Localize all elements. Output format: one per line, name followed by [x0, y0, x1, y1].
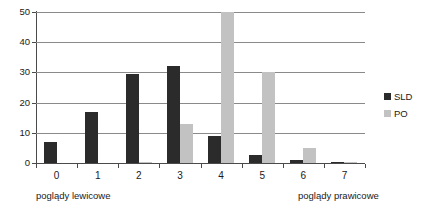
bar-po-6: [303, 148, 316, 163]
y-tick-label-50: 50: [0, 7, 30, 17]
bar-sld-4: [208, 136, 221, 163]
bar-sld-3: [167, 66, 180, 163]
x-tick-label-0: 0: [45, 170, 69, 182]
x-tick-4: [201, 164, 202, 168]
legend-label: PO: [394, 108, 408, 119]
y-tick-label-30: 30: [0, 67, 30, 77]
legend-swatch-icon-po: [384, 110, 391, 117]
y-tick-label-40: 40: [0, 37, 30, 47]
x-tick-3: [159, 164, 160, 168]
x-tick-label-7: 7: [332, 170, 356, 182]
x-tick-2: [118, 164, 119, 168]
right-axis-caption: poglądy prawicowe: [298, 190, 379, 202]
bar-po-3: [180, 124, 193, 163]
chart-legend: SLDPO: [384, 88, 412, 122]
y-tick-label-10: 10: [0, 128, 30, 138]
legend-item-po[interactable]: PO: [384, 105, 412, 122]
plot-area: [36, 12, 365, 163]
bar-sld-7: [331, 162, 344, 163]
x-tick-6: [283, 164, 284, 168]
x-tick-label-4: 4: [209, 170, 233, 182]
x-tick-label-3: 3: [168, 170, 192, 182]
y-tick-label-0: 0: [0, 158, 30, 168]
bar-sld-2: [126, 74, 139, 163]
legend-label: SLD: [394, 91, 412, 102]
legend-item-sld[interactable]: SLD: [384, 88, 412, 105]
gridline-20: [36, 103, 365, 104]
gridline-40: [36, 42, 365, 43]
bar-sld-5: [249, 155, 262, 163]
bar-po-2: [139, 162, 152, 163]
bar-chart: 01020304050 01234567 poglądy lewicowe po…: [0, 0, 426, 218]
bar-po-5: [262, 72, 275, 163]
x-tick-label-5: 5: [250, 170, 274, 182]
x-tick-label-1: 1: [86, 170, 110, 182]
left-axis-caption: poglądy lewicowe: [36, 190, 110, 202]
bar-sld-6: [290, 160, 303, 163]
bar-po-4: [221, 12, 234, 163]
x-tick-1: [77, 164, 78, 168]
gridline-30: [36, 72, 365, 73]
legend-swatch-icon-sld: [384, 93, 391, 100]
x-tick-5: [242, 164, 243, 168]
x-tick-7: [324, 164, 325, 168]
gridline-50: [36, 12, 365, 13]
bar-po-7: [344, 162, 357, 163]
x-tick-0: [36, 164, 37, 168]
x-tick-end: [365, 164, 366, 168]
bar-sld-0: [44, 142, 57, 163]
x-tick-label-2: 2: [127, 170, 151, 182]
bar-sld-1: [85, 112, 98, 163]
x-tick-label-6: 6: [291, 170, 315, 182]
y-tick-label-20: 20: [0, 98, 30, 108]
